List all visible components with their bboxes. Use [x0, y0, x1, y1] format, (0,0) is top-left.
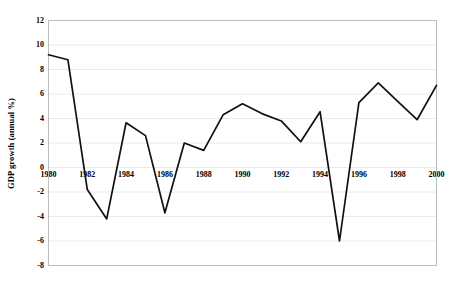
- gridlines: [49, 45, 437, 241]
- gdp-growth-line-chart: GDP growth (annual %) 121086420-2-4-6-8 …: [0, 0, 453, 287]
- data-series-line: [49, 55, 437, 241]
- plot-area: [0, 0, 453, 287]
